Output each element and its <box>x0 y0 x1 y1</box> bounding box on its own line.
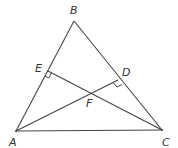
segment-ca <box>16 130 162 131</box>
label-a: A <box>8 136 17 148</box>
label-e: E <box>35 62 42 75</box>
altitude-ad <box>16 80 118 131</box>
point-a-dot <box>15 130 17 132</box>
label-c: C <box>162 136 170 148</box>
right-angle-marker-d <box>113 83 122 88</box>
label-d: D <box>122 66 130 79</box>
segment-bc <box>74 21 162 130</box>
triangle-diagram: A B C D E F <box>0 0 178 148</box>
label-b: B <box>70 4 78 17</box>
label-f: F <box>86 97 93 110</box>
point-c-dot <box>161 129 163 131</box>
altitude-ce <box>48 71 162 130</box>
